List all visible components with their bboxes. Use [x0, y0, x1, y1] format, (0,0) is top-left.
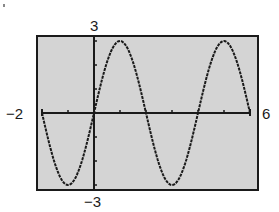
graph-window: [0, 0, 279, 212]
ymin-label: −3: [84, 194, 101, 209]
ymax-label: 3: [90, 18, 98, 33]
xmax-label: 6: [262, 106, 270, 121]
xmin-label: −2: [6, 106, 23, 121]
